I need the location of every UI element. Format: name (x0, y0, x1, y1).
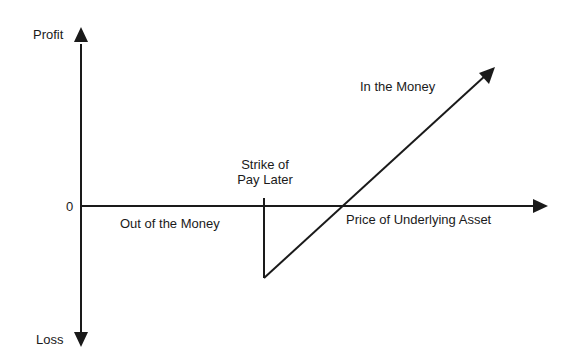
strike-label-line2: Pay Later (230, 172, 300, 187)
out-of-money-label: Out of the Money (120, 216, 220, 231)
x-axis-right-arrow-icon (533, 199, 548, 213)
zero-tick-label: 0 (66, 199, 73, 214)
profit-label: Profit (33, 27, 63, 42)
x-axis-label: Price of Underlying Asset (346, 212, 491, 227)
y-axis-up-arrow-icon (74, 27, 88, 42)
in-the-money-label: In the Money (360, 79, 435, 94)
payoff-arrow-icon (479, 67, 495, 84)
strike-label-line1: Strike of (230, 157, 300, 172)
y-axis-down-arrow-icon (74, 332, 88, 347)
loss-label: Loss (36, 332, 63, 347)
strike-label: Strike of Pay Later (230, 157, 300, 187)
